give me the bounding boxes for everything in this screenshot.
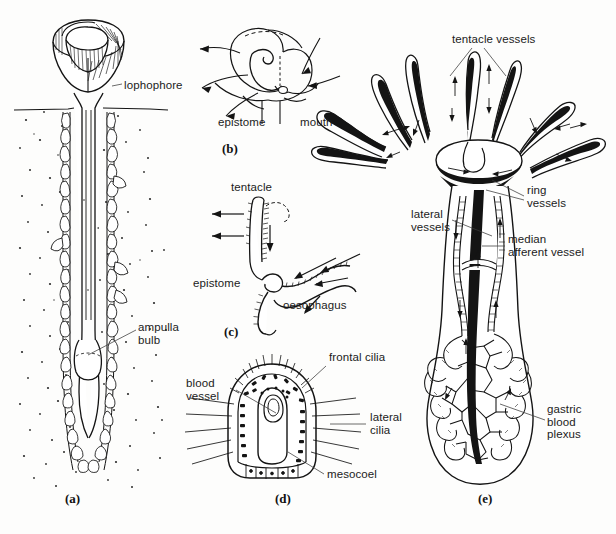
label-tentacle-vessels: tentacle vessels — [452, 33, 535, 46]
panel-caption-c: (c) — [224, 324, 238, 340]
figure-illustration — [0, 0, 616, 534]
label-mouth: mouth — [300, 116, 332, 129]
panel-caption-d: (d) — [275, 491, 291, 507]
label-epistome-c: epistome — [193, 277, 240, 290]
label-oesophagus: oesophagus — [283, 299, 347, 312]
label-lateral-cilia: lateral cilia — [370, 411, 402, 436]
panel-caption-a: (a) — [65, 491, 80, 507]
panel-caption-b: (b) — [222, 141, 238, 157]
label-blood-vessel: blood vessel — [186, 377, 219, 402]
label-mesocoel: mesocoel — [327, 468, 377, 481]
label-frontal-cilia: frontal cilia — [329, 351, 385, 364]
label-lophophore: lophophore — [124, 79, 183, 92]
label-tentacle: tentacle — [231, 181, 272, 194]
label-epistome-b: epistome — [218, 116, 265, 129]
panel-caption-e: (e) — [478, 491, 492, 507]
ampulla-bulb — [74, 340, 101, 380]
label-gastric-blood-plexus: gastric blood plexus — [547, 403, 582, 441]
label-ampulla-bulb: ampulla bulb — [138, 321, 179, 346]
label-lateral-vessels: lateral vessels — [411, 208, 450, 233]
label-ring-vessels: ring vessels — [527, 184, 566, 209]
label-median-afferent-vessel: median afferent vessel — [508, 233, 584, 258]
